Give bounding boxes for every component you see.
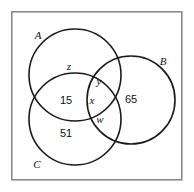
region-label-a-and-b-only: y	[96, 75, 102, 87]
set-label-a: A	[34, 29, 42, 41]
set-label-c: C	[33, 158, 41, 170]
venn-diagram-canvas: A B C z y x w 15 65 51	[0, 0, 194, 192]
venn-diagram-figure: A B C z y x w 15 65 51	[0, 0, 194, 192]
region-label-a-only: z	[66, 60, 72, 72]
region-label-b-and-c-only: w	[96, 113, 104, 125]
set-label-b: B	[160, 55, 167, 67]
region-label-b-only: 65	[125, 93, 137, 105]
region-label-a-and-c-only: 15	[60, 94, 72, 106]
region-label-a-and-b-and-c: x	[89, 94, 95, 106]
region-label-c-only: 51	[60, 127, 72, 139]
